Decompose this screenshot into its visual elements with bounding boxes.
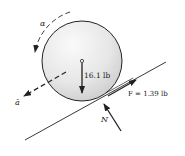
alpha-label: α — [40, 19, 46, 28]
free-body-diagram: α 16.1 lb ā F = 1.39 lb N — [0, 0, 185, 156]
normal-label: N — [100, 115, 109, 124]
center-pin — [80, 59, 83, 62]
weight-label: 16.1 lb — [84, 71, 110, 80]
friction-label: F = 1.39 lb — [128, 90, 168, 98]
acceleration-label: ā — [15, 98, 20, 107]
